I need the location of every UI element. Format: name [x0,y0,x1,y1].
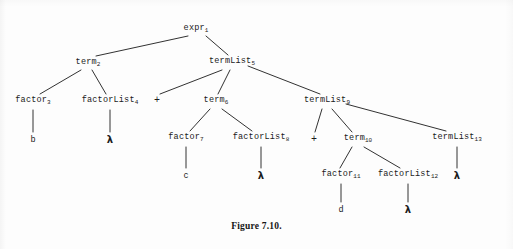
tree-terminal-lambda: λ [454,171,460,181]
node-subscript: 2 [97,61,101,68]
node-label: expr [184,23,205,33]
tree-node-factor-11: factor11 [321,170,360,181]
tree-terminal-lambda: λ [405,205,411,215]
tree-node-factorlist-4: factorList4 [82,96,139,107]
node-subscript: 9 [346,99,350,106]
tree-node-termlist-13: termList13 [432,133,482,144]
tree-terminal-symbol: b [30,136,35,145]
node-subscript: 4 [135,99,139,106]
tree-edge [332,109,352,132]
tree-edge [315,109,322,132]
node-subscript: 10 [365,137,372,144]
tree-node-termlist-9: termList9 [304,96,350,107]
tree-edge [206,36,228,55]
tree-edge [248,66,320,94]
tree-node-term-2: term2 [76,58,101,69]
node-subscript: 3 [47,99,51,106]
node-label: termList [209,56,251,66]
node-label: termList [432,132,474,142]
node-subscript: 5 [251,60,255,67]
tree-node-factorlist-8: factorList8 [233,133,290,144]
parse-tree-figure: expr1term2factor3factorList4termList5ter… [0,0,513,249]
tree-node-factor-3: factor3 [15,96,50,107]
tree-edge-layer [0,0,513,249]
node-label: factor [15,95,47,105]
node-label: factorList [233,132,286,142]
tree-terminal-plus: + [154,96,160,106]
node-subscript: 13 [475,136,482,143]
tree-edge [190,109,210,131]
tree-terminal-lambda: λ [258,171,264,181]
tree-node-factor-7: factor7 [168,133,203,144]
node-label: term [76,57,97,67]
node-subscript: 7 [200,136,204,143]
tree-node-term-10: term10 [344,134,372,145]
tree-node-factorlist-12: factorList12 [378,170,438,181]
node-label: factorList [378,169,431,179]
tree-terminal-symbol: c [183,172,188,181]
node-label: factorList [82,95,135,105]
tree-edge [364,147,400,168]
node-subscript: 1 [205,27,209,34]
node-label: factor [168,132,200,142]
tree-edge [40,70,81,94]
tree-edge [218,70,230,94]
tree-terminal-symbol: d [338,206,343,215]
tree-terminal-plus: + [311,135,317,145]
node-subscript: 8 [286,136,290,143]
node-subscript: 11 [353,173,360,180]
node-subscript: 12 [431,173,438,180]
node-label: term [204,95,225,105]
node-label: term [344,133,365,143]
node-subscript: 6 [225,99,229,106]
tree-node-termlist-5: termList5 [209,57,255,68]
tree-edge [346,104,446,131]
tree-edge [96,36,188,56]
tree-edge [222,109,252,131]
figure-caption: Figure 7.10. [0,221,513,231]
tree-terminal-lambda: λ [107,135,113,145]
tree-node-term-6: term6 [204,96,229,107]
tree-node-expr-1: expr1 [184,24,209,35]
tree-edge [92,70,106,94]
node-label: factor [321,169,353,179]
tree-edge [340,147,352,168]
node-label: termList [304,95,346,105]
tree-edge [160,70,222,94]
